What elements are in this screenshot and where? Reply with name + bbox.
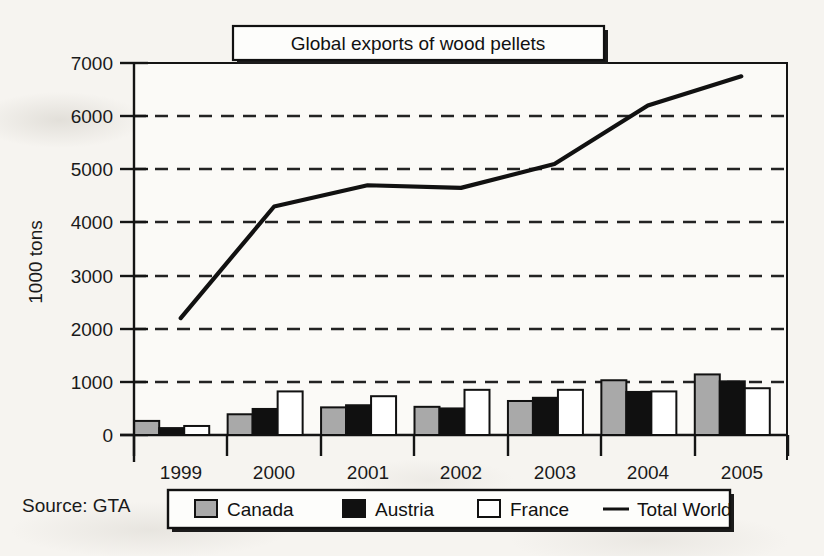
y-tick-label-1000: 1000	[71, 372, 113, 393]
plot-area-background	[133, 62, 788, 435]
bar-canada-1999	[134, 421, 159, 435]
x-tick-label-1999: 1999	[160, 462, 202, 483]
x-tick-label-2003: 2003	[534, 462, 576, 483]
y-tick-label-2000: 2000	[71, 319, 113, 340]
bar-austria-2002	[440, 408, 465, 435]
x-tick-label-2001: 2001	[347, 462, 389, 483]
legend-swatch-canada-icon	[195, 500, 217, 517]
bar-france-2000	[278, 391, 303, 435]
legend-swatch-austria-icon	[343, 500, 365, 517]
legend-label-austria: Austria	[375, 499, 435, 520]
y-tick-label-5000: 5000	[71, 159, 113, 180]
y-tick-label-3000: 3000	[71, 266, 113, 287]
y-tick-label-0: 0	[102, 425, 113, 446]
x-tick-label-2002: 2002	[440, 462, 482, 483]
bar-canada-2004	[601, 380, 626, 435]
legend-label-france: France	[510, 499, 569, 520]
bar-france-2003	[558, 390, 583, 435]
bar-canada-2003	[508, 401, 533, 435]
bar-france-2001	[371, 396, 396, 435]
legend-item-austria[interactable]: Austria	[343, 499, 435, 520]
bar-austria-2004	[626, 392, 651, 435]
legend-label-canada: Canada	[227, 499, 294, 520]
bar-austria-2000	[253, 409, 278, 435]
chart-legend: Canada Austria France Total World	[168, 490, 734, 532]
y-axis-title: 1000 tons	[25, 220, 46, 303]
x-tick-label-2005: 2005	[721, 462, 763, 483]
bar-france-2002	[465, 390, 490, 435]
chart-title-box: Global exports of wood pellets	[233, 26, 608, 64]
y-axis-tick-labels: 7000 6000 5000 4000 3000 2000 1000 0	[71, 53, 113, 446]
legend-item-canada[interactable]: Canada	[195, 499, 294, 520]
bar-canada-2005	[695, 374, 720, 435]
chart-title: Global exports of wood pellets	[291, 33, 546, 54]
bar-austria-1999	[159, 428, 184, 435]
chart-figure: 7000 6000 5000 4000 3000 2000 1000 0 100…	[0, 0, 824, 556]
x-axis-ticks	[134, 435, 788, 456]
bar-canada-2001	[321, 407, 346, 435]
wood-pellets-chart: 7000 6000 5000 4000 3000 2000 1000 0 100…	[0, 0, 824, 556]
bar-austria-2003	[533, 398, 558, 435]
x-tick-label-2000: 2000	[253, 462, 295, 483]
legend-swatch-france-icon	[478, 500, 500, 517]
y-tick-label-4000: 4000	[71, 212, 113, 233]
bar-austria-2001	[346, 405, 371, 435]
bar-canada-2000	[228, 414, 253, 435]
y-tick-label-6000: 6000	[71, 106, 113, 127]
x-tick-label-2004: 2004	[627, 462, 670, 483]
bar-france-2005	[745, 388, 770, 435]
source-label: Source: GTA	[22, 495, 131, 516]
bar-canada-2002	[415, 407, 440, 435]
y-tick-label-7000: 7000	[71, 53, 113, 74]
x-axis-tick-labels: 1999 2000 2001 2002 2003 2004 2005	[160, 462, 763, 483]
bar-france-2004	[651, 391, 676, 435]
bar-austria-2005	[720, 381, 745, 435]
legend-label-total-world: Total World	[637, 499, 732, 520]
bar-france-1999	[184, 426, 209, 435]
legend-item-france[interactable]: France	[478, 499, 569, 520]
